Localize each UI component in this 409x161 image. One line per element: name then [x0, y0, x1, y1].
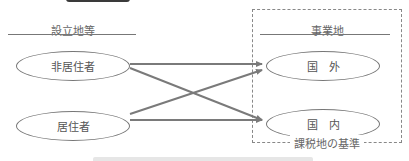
bottom-caption-bar — [93, 157, 313, 161]
edges — [0, 0, 409, 161]
